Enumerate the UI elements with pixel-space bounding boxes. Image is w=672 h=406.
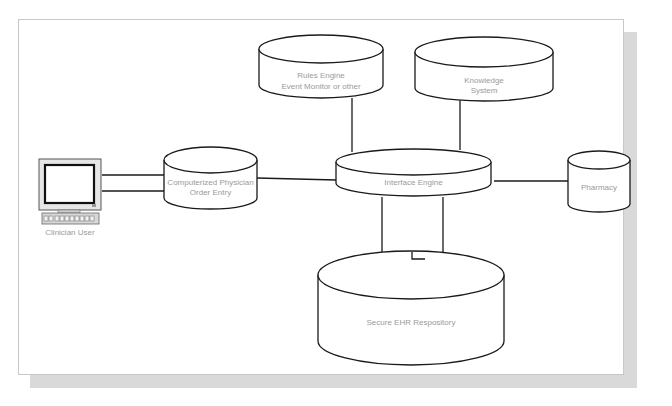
edge-cpoe-interface <box>257 178 336 180</box>
rules-engine-node[interactable]: Rules Engine Event Monitor or other <box>259 35 383 98</box>
cpoe-node[interactable]: Computerized Physician Order Entry <box>164 147 257 209</box>
pharmacy-node[interactable]: Pharmacy <box>568 151 630 212</box>
knowledge-system-label-1: Knowledge <box>464 76 504 85</box>
interface-engine-node[interactable]: Interface Engine <box>336 149 491 196</box>
interface-engine-label: Interface Engine <box>384 178 443 187</box>
edge-clinician-cpoe <box>102 175 164 191</box>
rules-engine-label-1: Rules Engine <box>297 71 345 80</box>
computer-workstation-icon <box>39 159 101 224</box>
clinician-node[interactable]: Clinician User <box>39 159 101 237</box>
pharmacy-label: Pharmacy <box>581 183 617 192</box>
knowledge-system-label-2: System <box>471 86 498 95</box>
cpoe-label-1: Computerized Physician <box>167 178 253 187</box>
ehr-repository-label: Secure EHR Respository <box>367 318 456 327</box>
ehr-repository-node[interactable]: Secure EHR Respository <box>318 251 504 365</box>
clinician-label: Clinician User <box>45 228 95 237</box>
cpoe-label-2: Order Entry <box>190 188 231 197</box>
architecture-diagram: Rules Engine Event Monitor or other Know… <box>0 0 672 406</box>
edge-interface-ehr <box>382 197 443 259</box>
rules-engine-label-2: Event Monitor or other <box>281 82 360 91</box>
knowledge-system-node[interactable]: Knowledge System <box>415 37 553 101</box>
